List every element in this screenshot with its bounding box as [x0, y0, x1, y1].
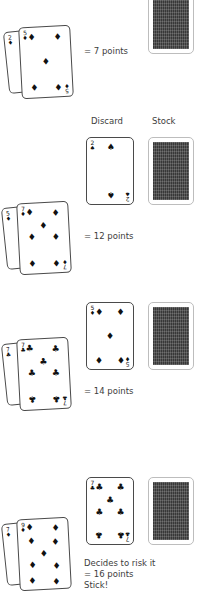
card-pip: ♦ — [25, 523, 34, 532]
card-suit-icon: ♦ — [124, 356, 131, 362]
card-pip: ♣ — [95, 530, 103, 539]
card-corner-rank-suit: 7 ♣ — [4, 346, 12, 358]
card-pip: ♣ — [95, 482, 103, 491]
discard-card-round-4[interactable]: 7 ♣ 7 ♣ ♣ ♣ ♣ ♣ ♣ ♣ ♣ — [86, 477, 134, 545]
card-pip: ♣ — [28, 369, 37, 378]
card-pip: ♠ — [107, 143, 115, 152]
hand-card-front-round-4[interactable]: 9 ♦ ♦ ♦ ♦ ♦ ♦ ♦ ♦ ♦ ♦ — [16, 517, 72, 592]
decision-note-line-3: Stick! — [84, 580, 155, 591]
card-corner-rank-suit: 2 ♠ — [124, 191, 131, 202]
card-suit-icon: ♣ — [61, 395, 68, 401]
card-pip: ♦ — [52, 233, 61, 242]
stock-card-back-round-3[interactable] — [148, 302, 194, 370]
card-pip: ♣ — [117, 530, 125, 539]
stock-card-back-round-4[interactable] — [148, 477, 194, 545]
card-corner-rank-suit: 7 ♣ — [61, 395, 69, 406]
card-suit-icon: ♠ — [89, 145, 96, 151]
card-back-pattern — [153, 307, 189, 365]
card-pip: ♦ — [40, 549, 49, 558]
card-pip: ♦ — [53, 33, 62, 42]
card-pip: ♦ — [106, 332, 114, 341]
card-pip: ♦ — [117, 355, 125, 364]
card-pip: ♠ — [107, 190, 115, 199]
points-note-round-3: = 14 points — [84, 386, 133, 397]
card-suit-icon: ♦ — [5, 215, 13, 222]
card-pip: ♦ — [27, 537, 36, 546]
card-pip: ♣ — [95, 507, 103, 516]
card-back-pattern — [153, 482, 189, 540]
discard-card-round-2[interactable]: 2 ♠ 2 ♠ ♠ ♠ — [86, 137, 134, 205]
card-pip: ♦ — [54, 82, 63, 91]
card-pip: ♦ — [52, 561, 61, 570]
card-pip: ♣ — [51, 344, 60, 353]
card-corner-rank-suit: 5 ♦ — [4, 210, 12, 222]
card-back-pattern — [153, 142, 189, 200]
card-pip: ♦ — [95, 355, 103, 364]
points-note-round-2: = 12 points — [84, 231, 133, 242]
card-pip: ♣ — [117, 507, 125, 516]
decision-note-round-4: Decides to risk it = 16 points Stick! — [84, 558, 155, 591]
card-corner-rank-suit: 5 ♦ — [63, 83, 71, 94]
card-pip: ♦ — [95, 308, 103, 317]
decision-note-line-2: = 16 points — [84, 569, 155, 580]
card-suit-icon: ♦ — [61, 259, 68, 265]
card-corner-rank-suit: 7 ♦ — [61, 259, 69, 270]
card-corner-rank-suit: 7 ♣ — [124, 531, 131, 542]
card-pip: ♦ — [25, 208, 34, 217]
card-pip: ♦ — [39, 221, 48, 230]
card-pip: ♦ — [27, 33, 36, 42]
card-pip: ♣ — [52, 394, 61, 403]
hand-card-front-round-3[interactable]: 7 ♣ 7 ♣ ♣ ♣ ♣ ♣ ♣ ♣ ♣ — [16, 337, 72, 412]
discard-column-label: Discard — [91, 116, 123, 126]
card-suit-icon: ♦ — [7, 39, 15, 46]
card-suit-icon: ♣ — [124, 531, 131, 537]
card-corner-rank-suit: 7 ♦ — [4, 526, 12, 538]
points-note-round-1: = 7 points — [84, 46, 128, 57]
hand-card-front-round-1[interactable]: 5 ♦ 5 ♦ ♦ ♦ ♦ ♦ ♦ — [18, 25, 74, 100]
card-pip: ♦ — [28, 575, 37, 584]
card-pip: ♦ — [28, 233, 37, 242]
card-pip: ♦ — [117, 308, 125, 317]
card-suit-icon: ♠ — [124, 191, 131, 197]
card-pip: ♦ — [51, 523, 60, 532]
decision-note-line-1: Decides to risk it — [84, 558, 155, 569]
card-suit-icon: ♦ — [5, 531, 13, 538]
card-pip: ♣ — [39, 357, 48, 366]
card-suit-icon: ♦ — [63, 83, 70, 89]
discard-card-round-3[interactable]: 5 ♦ 5 ♦ ♦ ♦ ♦ ♦ ♦ — [86, 302, 134, 370]
stock-card-back-row0[interactable] — [148, 0, 194, 54]
stock-card-back-round-2[interactable] — [148, 137, 194, 205]
card-suit-icon: ♣ — [5, 351, 13, 358]
card-pip: ♣ — [25, 344, 34, 353]
card-pip: ♦ — [51, 208, 60, 217]
card-pip: ♣ — [106, 495, 114, 504]
card-corner-rank-suit: 2 ♦ — [6, 34, 14, 46]
card-pip: ♦ — [28, 258, 37, 267]
card-corner-rank-suit: 5 ♦ — [124, 356, 131, 367]
card-pip: ♣ — [117, 482, 125, 491]
card-pip: ♦ — [52, 258, 61, 267]
card-pip: ♦ — [28, 561, 37, 570]
card-pip: ♦ — [51, 537, 60, 546]
stock-column-label: Stock — [152, 116, 176, 126]
card-back-pattern — [153, 0, 189, 49]
card-pip: ♦ — [52, 575, 61, 584]
hand-card-front-round-2[interactable]: 7 ♦ 7 ♦ ♦ ♦ ♦ ♦ ♦ ♦ ♦ — [16, 201, 72, 276]
card-pip: ♦ — [30, 82, 39, 91]
card-pip: ♣ — [52, 369, 61, 378]
card-corner-rank-suit: 2 ♠ — [89, 140, 96, 151]
card-pip: ♣ — [28, 394, 37, 403]
card-pip: ♦ — [42, 57, 51, 66]
